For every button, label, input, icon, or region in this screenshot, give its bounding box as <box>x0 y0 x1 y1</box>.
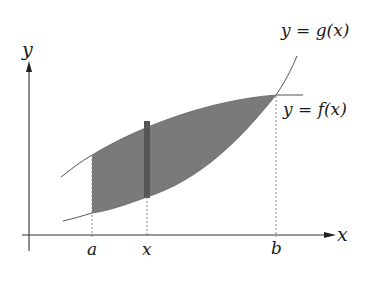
tick-label-b: b <box>271 240 282 257</box>
curve-label-g-lhs: y = <box>281 20 316 40</box>
y-axis-arrow-icon <box>26 61 32 72</box>
tick-label-a: a <box>87 241 97 258</box>
curve-f-left-tail <box>61 155 92 177</box>
shaded-region <box>92 95 276 213</box>
curve-label-f: y = f(x) <box>283 101 347 118</box>
curve-label-f-lhs: y = <box>283 99 318 119</box>
diagram-canvas <box>0 0 365 286</box>
curve-label-g: y = g(x) <box>281 22 349 39</box>
curve-label-f-fn: f(x) <box>318 99 347 119</box>
tick-label-x: x <box>142 241 152 258</box>
curve-g-right-tail <box>276 56 297 95</box>
curve-g-left-tail <box>63 213 92 221</box>
strip-at-x <box>144 121 150 198</box>
y-axis-label: y <box>22 40 33 59</box>
x-axis-label: x <box>337 225 348 244</box>
curve-label-g-fn: g(x) <box>316 20 350 40</box>
x-axis-arrow-icon <box>324 232 336 238</box>
area-between-curves-diagram: y x a x b y = g(x) y = f(x) <box>0 0 365 286</box>
